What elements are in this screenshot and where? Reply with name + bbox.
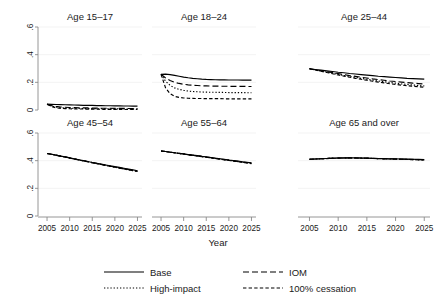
x-tick-label: 2010 [329,224,348,233]
series-line-dash-dot [309,158,424,160]
panel-title: Age 25–44 [341,11,387,22]
chart-svg: 0.2.4.6Age 15–17Age 18–24Age 25–440.2.4.… [0,0,437,306]
panel-2: Age 18–24 [152,11,256,99]
x-tick-label: 2015 [197,224,216,233]
panel-title: Age 15–17 [67,11,113,22]
panel-3: Age 25–44 [298,11,430,87]
legend-label-base: Base [150,267,172,278]
legend: BaseIOMHigh-impact100% cessation [104,267,356,294]
x-tick-label: 2020 [386,224,405,233]
x-axis-title: Year [208,237,227,248]
x-tick-label: 2005 [38,224,57,233]
panel-6: 20052010201520202025Age 65 and over [298,117,434,233]
x-tick-label: 2015 [83,224,102,233]
y-tick-label: .4 [26,51,35,58]
chart-figure: 0.2.4.6Age 15–17Age 18–24Age 25–440.2.4.… [0,0,437,306]
series-line-dotted [161,74,251,92]
x-tick-label: 2005 [152,224,171,233]
series-line-solid [47,104,137,106]
series-line-dash-dot [161,74,251,98]
panel-5: 20052010201520202025Age 55–64 [152,117,261,233]
panel-title: Age 55–64 [181,117,227,128]
panel-4: 0.2.4.620052010201520202025Age 45–54 [26,117,147,233]
panel-1: 0.2.4.6Age 15–17 [26,11,142,112]
y-tick-label: .4 [26,157,35,164]
x-tick-label: 2025 [415,224,434,233]
x-tick-label: 2020 [106,224,125,233]
x-tick-label: 2015 [358,224,377,233]
x-tick-label: 2025 [128,224,147,233]
x-tick-label: 2025 [242,224,261,233]
y-tick-label: 0 [26,107,35,112]
panel-title: Age 65 and over [329,117,399,128]
legend-label-cessation: 100% cessation [289,283,356,294]
legend-label-iom: IOM [289,267,307,278]
legend-label-high_impact: High-impact [150,283,201,294]
x-tick-label: 2020 [220,224,239,233]
y-tick-label: 0 [26,213,35,218]
x-tick-label: 2010 [175,224,194,233]
y-tick-label: .2 [26,184,35,191]
x-tick-label: 2010 [61,224,80,233]
y-tick-label: .2 [26,78,35,85]
y-tick-label: .6 [26,23,35,30]
panel-title: Age 45–54 [67,117,113,128]
y-tick-label: .6 [26,129,35,136]
x-tick-label: 2005 [300,224,319,233]
series-line-solid [161,74,251,80]
panel-title: Age 18–24 [181,11,227,22]
